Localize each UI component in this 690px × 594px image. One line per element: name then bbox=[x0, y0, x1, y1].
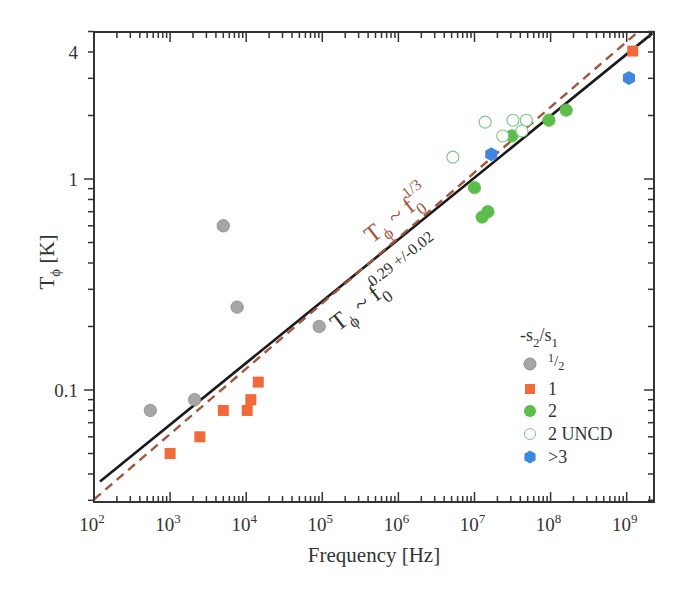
legend: -s2/s1 1/2 1 2 2 UNCD >3 bbox=[520, 325, 613, 467]
data-point bbox=[482, 205, 494, 217]
series--3 bbox=[485, 71, 635, 161]
data-point bbox=[231, 301, 243, 313]
data-point bbox=[627, 46, 638, 57]
data-point bbox=[560, 104, 572, 116]
legend-marker-green-circle bbox=[524, 405, 536, 417]
legend-label-gt3: >3 bbox=[548, 447, 567, 467]
legend-label-2-uncd: 2 UNCD bbox=[548, 424, 613, 444]
legend-label-2: 2 bbox=[548, 401, 557, 421]
x-tick-label: 109 bbox=[612, 511, 638, 535]
x-axis-title: Frequency [Hz] bbox=[308, 543, 440, 567]
y-tick-label: 0.1 bbox=[54, 380, 78, 401]
legend-label-half: 1/2 bbox=[548, 351, 564, 373]
x-tick-label: 106 bbox=[384, 511, 410, 535]
legend-marker-blue-hexagon bbox=[524, 451, 535, 464]
legend-item-half: 1/2 bbox=[524, 351, 564, 373]
scatter-plot: 1021031041051061071081090.114 Tϕ [K] Fre… bbox=[0, 0, 690, 594]
data-point bbox=[468, 181, 480, 193]
legend-marker-orange-square bbox=[525, 384, 535, 394]
series-1-2 bbox=[144, 220, 325, 417]
data-point bbox=[188, 393, 200, 405]
data-point bbox=[253, 377, 264, 388]
x-tick-label: 107 bbox=[460, 511, 486, 535]
data-point bbox=[497, 130, 509, 142]
legend-item-1: 1 bbox=[525, 379, 557, 399]
data-point bbox=[623, 71, 635, 85]
legend-item-2: 2 bbox=[524, 401, 557, 421]
data-point bbox=[520, 114, 532, 126]
data-point bbox=[543, 114, 555, 126]
legend-marker-open-circle bbox=[525, 429, 536, 440]
data-point bbox=[447, 151, 459, 163]
data-point bbox=[144, 404, 156, 416]
fit-line-fit bbox=[100, 33, 652, 481]
data-point bbox=[217, 220, 229, 232]
legend-item-2-uncd: 2 UNCD bbox=[525, 424, 613, 444]
legend-marker-gray-circle bbox=[524, 358, 536, 370]
y-tick-label: 4 bbox=[69, 42, 79, 63]
data-point bbox=[245, 394, 256, 405]
x-tick-label: 103 bbox=[155, 511, 181, 535]
fit-annotation-power-law: Tϕ ~ f00.29 +/-0.02 bbox=[321, 227, 451, 341]
x-tick-label: 105 bbox=[308, 511, 334, 535]
data-point bbox=[242, 405, 253, 416]
data-point bbox=[194, 431, 205, 442]
data-point bbox=[218, 405, 229, 416]
data-point bbox=[165, 448, 176, 459]
x-tick-label: 108 bbox=[536, 511, 562, 535]
data-points bbox=[144, 46, 638, 459]
y-tick-label: 1 bbox=[69, 169, 79, 190]
x-tick-label: 102 bbox=[79, 511, 105, 535]
legend-label-1: 1 bbox=[548, 379, 557, 399]
x-tick-label: 104 bbox=[231, 511, 257, 535]
data-point bbox=[313, 320, 325, 332]
data-point bbox=[507, 114, 519, 126]
data-point bbox=[479, 116, 491, 128]
y-axis-title: Tϕ [K] bbox=[35, 234, 63, 289]
legend-item-gt3: >3 bbox=[524, 447, 567, 467]
legend-title: -s2/s1 bbox=[520, 325, 558, 350]
